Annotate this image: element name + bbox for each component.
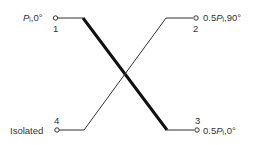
port-3-number: 3	[195, 116, 200, 126]
port-2-terminal	[194, 16, 198, 20]
port-4-terminal	[55, 128, 59, 132]
port-4-number: 4	[54, 116, 59, 126]
port-3-label: 0.5Pi,0°	[203, 125, 236, 138]
port-2-label: 0.5Pi,90°	[203, 12, 241, 25]
port-4-label: Isolated	[10, 125, 43, 136]
power-factor: 0.5	[203, 125, 216, 136]
port-1-number: 1	[53, 24, 58, 34]
port-1-terminal	[53, 16, 57, 20]
power-factor: 0.5	[203, 12, 216, 23]
port-2-number: 2	[193, 24, 198, 34]
port-3-terminal	[195, 128, 199, 132]
phase-text: ,0°	[224, 125, 236, 136]
path-1-to-3	[58, 18, 194, 130]
phase-text: ,0°	[31, 12, 43, 23]
port-1-label: Pi,0°	[23, 12, 43, 25]
phase-text: ,90°	[224, 12, 241, 23]
